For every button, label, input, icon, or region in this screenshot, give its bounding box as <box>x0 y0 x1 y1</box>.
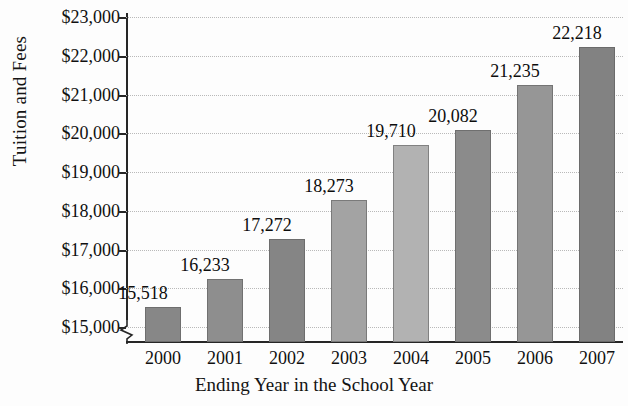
x-axis-title: Ending Year in the School Year <box>0 374 628 396</box>
plot-area: 15,51816,23317,27218,27319,71020,08221,2… <box>126 17 623 342</box>
bar-value-label: 21,235 <box>475 61 555 82</box>
bar-value-label: 22,218 <box>537 23 617 44</box>
y-axis-tick <box>118 250 126 252</box>
y-axis-tick <box>118 133 126 135</box>
bar-value-label: 20,082 <box>413 106 493 127</box>
bar-value-label: 17,272 <box>227 215 307 236</box>
y-axis-tick <box>118 211 126 213</box>
y-axis-tick-label: $19,000 <box>28 162 120 183</box>
y-axis-tick <box>118 56 126 58</box>
y-axis-tick-label: $23,000 <box>28 7 120 28</box>
bar <box>331 200 367 342</box>
y-axis-tick-label: $20,000 <box>28 123 120 144</box>
x-axis-tick-label: 2002 <box>252 348 322 369</box>
bar <box>269 239 305 342</box>
y-axis-tick-label: $22,000 <box>28 45 120 66</box>
bar <box>393 145 429 342</box>
bar-chart: Tuition and Fees $15,000$16,000$17,000$1… <box>0 0 628 406</box>
bar-value-label: 16,233 <box>165 255 245 276</box>
bar <box>517 85 553 342</box>
x-axis-tick-label: 2001 <box>190 348 260 369</box>
bar <box>145 307 181 342</box>
gridline <box>126 17 623 18</box>
y-axis-tick <box>118 17 126 19</box>
y-axis-tick-label: $17,000 <box>28 239 120 260</box>
x-axis-tick-label: 2006 <box>500 348 570 369</box>
y-axis-tick-label: $21,000 <box>28 84 120 105</box>
gridline <box>126 56 623 57</box>
y-axis-tick-labels: $15,000$16,000$17,000$18,000$19,000$20,0… <box>20 0 120 406</box>
x-axis-tick-label: 2003 <box>314 348 384 369</box>
bar <box>455 130 491 342</box>
bar <box>579 47 615 342</box>
y-axis-tick <box>118 172 126 174</box>
y-axis-tick-label: $18,000 <box>28 200 120 221</box>
bar-value-label: 15,518 <box>103 283 183 304</box>
x-axis-tick-label: 2004 <box>376 348 446 369</box>
x-axis-tick-label: 2007 <box>562 348 628 369</box>
y-axis-tick <box>118 95 126 97</box>
bar-value-label: 18,273 <box>289 176 369 197</box>
y-axis-tick-label: $15,000 <box>28 317 120 338</box>
x-axis-tick-label: 2000 <box>128 348 198 369</box>
x-axis-tick-label: 2005 <box>438 348 508 369</box>
bar <box>207 279 243 342</box>
y-axis-tick <box>118 327 126 329</box>
